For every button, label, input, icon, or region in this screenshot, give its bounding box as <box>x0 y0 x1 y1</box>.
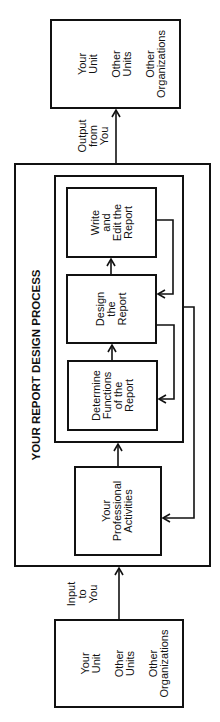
feedback-design-to-determine <box>156 325 174 399</box>
svg-text:You: You <box>98 127 110 146</box>
svg-text:Report: Report <box>116 292 128 325</box>
output-other-orgs-2: Organizations <box>155 30 167 98</box>
output-label: Output from You <box>76 119 110 152</box>
input-other-orgs-2: Organizations <box>158 629 170 697</box>
input-label: Input to You <box>65 582 99 606</box>
design-report-box: Design the Report <box>67 275 156 343</box>
svg-text:Report: Report <box>122 206 134 239</box>
feedback-write-to-design <box>156 220 173 294</box>
input-sources-box: Your Unit Other Units Other Organization… <box>55 620 183 707</box>
svg-text:Report: Report <box>123 379 135 412</box>
input-your-unit-2: Unit <box>90 654 102 674</box>
report-design-process-diagram: Your Unit Other Units Other Organization… <box>0 0 220 722</box>
process-title: YOUR REPORT DESIGN PROCESS <box>30 269 42 460</box>
output-your-unit-2: Unit <box>87 54 99 74</box>
write-edit-box: Write and Edit the Report <box>67 188 156 257</box>
svg-text:You: You <box>87 585 99 604</box>
output-targets-box: Your Unit Other Units Other Organization… <box>51 20 180 108</box>
input-other-units-2: Units <box>124 650 136 676</box>
professional-activities-box: Your Professional Activities <box>75 467 161 555</box>
feedback-group-to-professional <box>163 307 194 518</box>
output-other-units-2: Units <box>121 51 133 77</box>
determine-functions-box: Determine Functions of the Report <box>68 361 157 430</box>
svg-text:Activities: Activities <box>122 489 134 533</box>
